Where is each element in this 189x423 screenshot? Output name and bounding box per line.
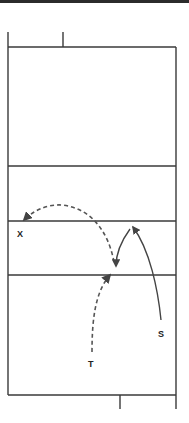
court-outline — [8, 32, 176, 409]
player-label-s: S — [158, 329, 164, 339]
movement-t-dashed-arrow — [92, 275, 110, 352]
movement-to-x-dashed-arrow — [24, 205, 114, 262]
court-diagram: X S T — [0, 0, 189, 423]
movement-net-solid-arrow — [116, 229, 130, 266]
movement-s-solid-arrow — [133, 227, 161, 320]
player-label-t: T — [88, 359, 94, 369]
player-label-x: X — [17, 229, 23, 239]
